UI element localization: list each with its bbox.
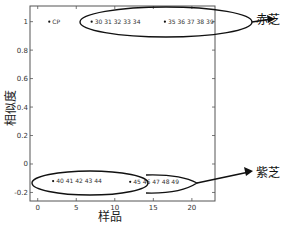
y-tick-label: -0.2	[14, 189, 28, 197]
data-point-label: 40 41 42 43 44	[56, 177, 102, 184]
x-axis-title: 样品	[98, 209, 122, 224]
data-point-marker	[129, 181, 131, 183]
y-tick-label: 0.2	[17, 132, 28, 140]
y-axis-title: 相似度	[3, 90, 18, 126]
data-point-marker	[91, 21, 93, 23]
data-point-marker	[52, 180, 54, 182]
x-tick-label: 0	[35, 204, 39, 212]
data-point-label: 30 31 32 33 34	[95, 18, 141, 25]
arrow-to-zizhi	[197, 172, 249, 183]
x-tick-label: 5	[74, 204, 78, 212]
arrow-head-zizhi	[244, 167, 253, 176]
data-point-marker	[164, 21, 166, 23]
x-tick-label: 20	[187, 204, 196, 212]
data-points: CP30 31 32 33 3435 36 37 38 3940 41 42 4…	[48, 18, 214, 185]
annotation-zizhi: 紫芝	[256, 165, 280, 180]
y-tick-label: 1	[24, 18, 28, 26]
group-ellipses	[32, 7, 252, 195]
similarity-scatter-chart: 05101520-0.200.20.40.60.81 CP30 31 32 33…	[0, 0, 282, 225]
data-point-label: 35 36 37 38 39	[168, 18, 214, 25]
annotation-arrows	[197, 15, 275, 183]
y-tick-label: 0.4	[17, 104, 29, 112]
y-tick-label: 0.8	[17, 47, 28, 55]
data-point-marker	[48, 21, 50, 23]
data-point-label: 45 46 47 48 49	[133, 178, 179, 185]
x-tick-label: 15	[149, 204, 158, 212]
data-point-label: CP	[52, 18, 60, 25]
y-tick-label: 0	[24, 160, 28, 168]
annotation-chizhi: 赤芝	[256, 12, 280, 27]
y-tick-label: 0.6	[17, 75, 29, 83]
